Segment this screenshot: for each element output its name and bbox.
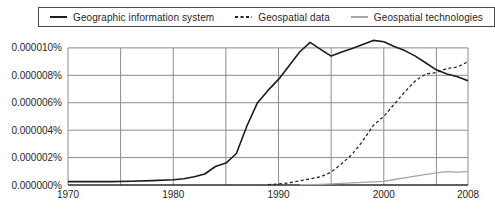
x-axis-label: 1980 — [162, 189, 185, 200]
solid-line-swatch-icon — [50, 15, 67, 19]
legend-label: Geographic information system — [73, 12, 214, 23]
x-axis-label: 2008 — [457, 189, 480, 200]
legend-label: Geospatial data — [258, 12, 330, 23]
y-axis-label: 0.000006% — [11, 97, 62, 108]
legend-item-geographic-information-system: Geographic information system — [50, 12, 214, 23]
series-line-0 — [68, 40, 468, 181]
y-axis-label: 0.000000% — [11, 180, 62, 191]
y-axis-label: 0.000004% — [11, 125, 62, 136]
series-line-1 — [268, 62, 468, 185]
y-axis-label: 0.000010% — [11, 42, 62, 53]
x-axis-label: 1970 — [57, 189, 80, 200]
chart-legend: Geographic information system Geospatial… — [38, 7, 495, 27]
legend-item-geospatial-data: Geospatial data — [235, 12, 330, 23]
x-axis-label: 2000 — [373, 189, 396, 200]
legend-label: Geospatial technologies — [374, 12, 483, 23]
y-axis-label: 0.000002% — [11, 152, 62, 163]
legend-item-geospatial-technologies: Geospatial technologies — [351, 12, 483, 23]
gray-line-swatch-icon — [351, 15, 368, 19]
x-axis-label: 1990 — [267, 189, 290, 200]
dashed-line-swatch-icon — [235, 15, 252, 19]
y-axis-label: 0.000008% — [11, 70, 62, 81]
